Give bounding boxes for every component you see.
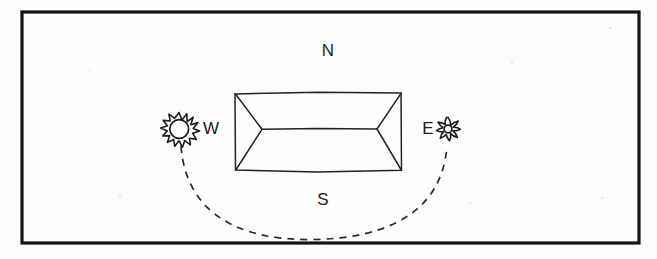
label-west: W [203,119,219,138]
diagram-canvas: N S W E [0,0,657,259]
diagram-svg: N S W E [0,0,657,259]
paper-background [0,0,657,259]
label-south: S [317,190,328,209]
label-north: N [322,41,334,60]
building-ridge-line [262,128,377,129]
label-east: E [422,119,433,138]
